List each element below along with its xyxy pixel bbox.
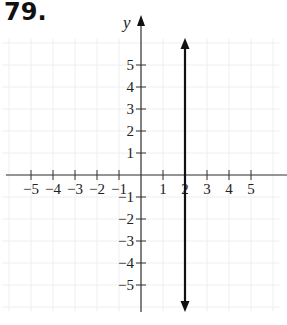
- x-tick-label: 5: [247, 181, 255, 197]
- y-tick-label: 1: [127, 145, 135, 161]
- x-tick-label: 1: [159, 181, 167, 197]
- y-tick-label: −4: [118, 255, 134, 271]
- y-tick-label: 4: [127, 79, 135, 95]
- y-axis-label: y: [121, 13, 131, 32]
- x-tick-label: 3: [203, 181, 211, 197]
- x-tick-label: 4: [225, 181, 233, 197]
- y-tick-label: −2: [118, 211, 134, 227]
- x-tick-label: −5: [23, 181, 39, 197]
- y-tick-label: 3: [127, 101, 135, 117]
- y-tick-label: 2: [127, 123, 135, 139]
- y-tick-label: −5: [118, 277, 134, 293]
- x-tick-label: −3: [67, 181, 83, 197]
- y-tick-label: −3: [118, 233, 134, 249]
- axes: y: [6, 13, 287, 312]
- y-tick-label: −1: [118, 189, 134, 205]
- y-axis-arrow-icon: [137, 15, 145, 26]
- x-tick-label: −2: [89, 181, 105, 197]
- x-tick-label: −4: [45, 181, 61, 197]
- coordinate-plane: y −5−4−3−2−112345−5−4−3−2−112345: [0, 0, 287, 325]
- y-tick-label: 5: [127, 57, 135, 73]
